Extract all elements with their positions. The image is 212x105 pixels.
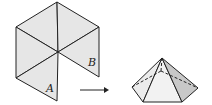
label-b: B	[87, 56, 96, 69]
label-a: A	[45, 82, 54, 95]
pyramid	[132, 58, 198, 102]
arrow	[80, 87, 109, 93]
hexagon-net	[16, 2, 99, 101]
diagram-canvas: B A	[0, 0, 212, 105]
